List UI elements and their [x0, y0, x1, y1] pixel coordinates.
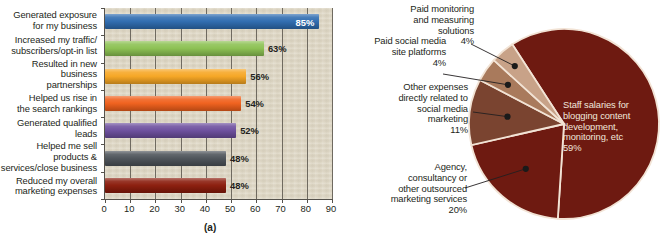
panel-a-caption: (a): [204, 222, 216, 233]
x-axis-tick-label: 20: [149, 203, 159, 214]
pie-leader-dot: [505, 82, 511, 88]
bar-category-label: Helped us rise inthe search rankings: [0, 91, 101, 116]
bar-category-label-line: Resulted in new business: [0, 59, 97, 81]
bar-category-label-line: subscribers/opt-in list: [11, 46, 97, 57]
bar-row[interactable]: 85%: [105, 8, 319, 35]
gridline: [307, 8, 308, 199]
pie-slice-label-line: 59%: [563, 143, 663, 154]
bar[interactable]: [105, 96, 241, 111]
bar-category-label-line: services/close business: [1, 163, 97, 174]
bar-category-label-line: Helped me sell products &: [0, 141, 97, 163]
x-axis-tick-label: 70: [275, 203, 285, 214]
pie-chart-panel: Staff salaries forblogging contentdevelo…: [345, 0, 671, 247]
bar[interactable]: 85%: [105, 14, 319, 29]
bar-row[interactable]: 48%: [105, 144, 249, 171]
bar-category-label-line: Helped us rise in: [29, 93, 97, 104]
bar-row[interactable]: 63%: [105, 35, 287, 62]
bar[interactable]: [105, 178, 226, 193]
bar-chart-x-axis-tick-labels: 0102030405060708090: [104, 203, 331, 217]
gridline: [332, 8, 333, 199]
pie-slice-label-line: 4%: [340, 58, 446, 69]
pie-slice-label-line: marketing: [340, 114, 468, 125]
x-axis-tick-label: 90: [326, 203, 336, 214]
bar[interactable]: [105, 69, 246, 84]
figure-container: Generated exposurefor my businessIncreas…: [0, 0, 671, 247]
pie-slice-label: Staff salaries forblogging contentdevelo…: [563, 100, 663, 154]
pie-slice-label-line: 20%: [355, 205, 467, 216]
bar-row[interactable]: 52%: [105, 117, 259, 144]
bar[interactable]: [105, 151, 226, 166]
bar-row[interactable]: 48%: [105, 172, 249, 199]
bar-category-label: Resulted in new businesspartnerships: [0, 59, 101, 91]
pie-slice-label-line: directly related to: [340, 93, 468, 104]
x-axis-tick-label: 10: [124, 203, 134, 214]
pie-slice-label-line: 4%: [370, 36, 474, 47]
pie-slice-label-line: site platforms: [340, 47, 446, 58]
pie-slice-label-line: 11%: [340, 125, 468, 136]
bar-value-label: 63%: [268, 43, 287, 54]
bar-row[interactable]: 54%: [105, 90, 264, 117]
pie-leader-dot: [512, 63, 518, 69]
x-axis-tick-label: 80: [301, 203, 311, 214]
pie-leader-dot: [504, 114, 510, 120]
bar-category-label-line: for my business: [33, 21, 97, 32]
bar-category-label-line: Generated exposure: [13, 10, 97, 21]
x-axis-tick-label: 50: [225, 203, 235, 214]
bar-value-label: 85%: [296, 16, 315, 27]
bar-row[interactable]: 56%: [105, 63, 269, 90]
pie-slice-label: Other expensesdirectly related tosocial …: [340, 82, 468, 136]
bar-category-axis-labels: Generated exposurefor my businessIncreas…: [0, 8, 101, 199]
bar-value-label: 56%: [250, 71, 269, 82]
bar-category-label: Increased my traffic/subscribers/opt-in …: [0, 33, 101, 58]
bar-category-label: Generated qualifiedleads: [0, 116, 101, 141]
pie-slice-label: Paid monitoringand measuringsolutions4%: [370, 4, 474, 47]
bar-category-label-line: marketing expenses: [15, 186, 97, 197]
bar-value-label: 48%: [230, 153, 249, 164]
x-axis-tick-label: 40: [200, 203, 210, 214]
pie-slice-label-line: blogging content: [563, 111, 663, 122]
x-axis-tick-label: 30: [174, 203, 184, 214]
pie-leader-dot: [523, 166, 529, 172]
pie-slice-label-line: and measuring: [370, 15, 474, 26]
bar-category-label: Generated exposurefor my business: [0, 8, 101, 33]
bar-value-label: 54%: [245, 98, 264, 109]
bar-category-label: Reduced my overallmarketing expenses: [0, 174, 101, 199]
bar-category-label-line: the search rankings: [17, 104, 97, 115]
pie-slice-label-line: solutions: [370, 26, 474, 37]
pie-slice-label: Agency,consultancy orother outsourcedmar…: [355, 162, 467, 216]
pie-slice-label-line: consultancy or: [355, 173, 467, 184]
bar-chart-plot-area: 85%63%56%54%52%48%48%: [104, 8, 332, 200]
bar[interactable]: [105, 123, 236, 138]
bar-chart-panel: Generated exposurefor my businessIncreas…: [0, 0, 345, 247]
x-axis-tick-label: 60: [250, 203, 260, 214]
bar-category-label: Helped me sell products &services/close …: [0, 141, 101, 173]
bar[interactable]: [105, 41, 264, 56]
bar-value-label: 48%: [230, 180, 249, 191]
bar-category-label-line: partnerships: [47, 80, 97, 91]
x-axis-tick-label: 0: [101, 203, 106, 214]
y-axis-tick-mark: [101, 199, 105, 200]
bar-category-label-line: leads: [75, 129, 97, 140]
bar-value-label: 52%: [240, 125, 259, 136]
